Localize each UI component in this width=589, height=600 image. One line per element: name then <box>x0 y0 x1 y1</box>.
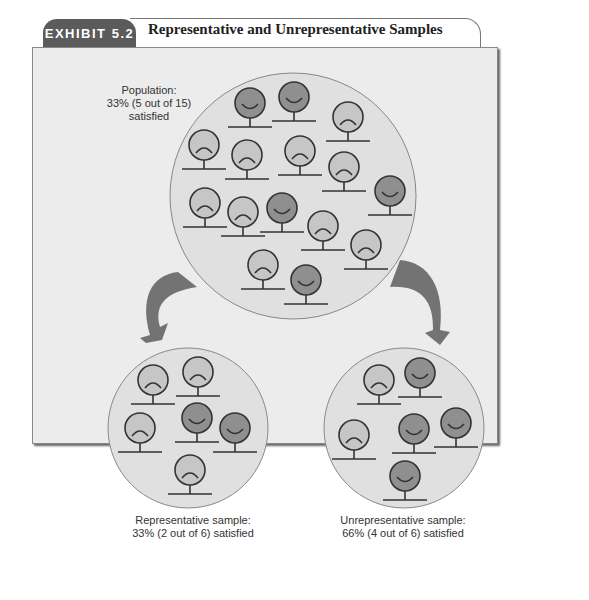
unrepresentative-sample-label: Unrepresentative sample: 66% (4 out of 6… <box>318 514 488 540</box>
population-label: Population: 33% (5 out of 15) satisfied <box>94 84 204 123</box>
arrow-to-unrepresentative <box>390 260 450 345</box>
representative-label-line2: 33% (2 out of 6) satisfied <box>108 527 278 540</box>
unrepresentative-label-line1: Unrepresentative sample: <box>318 514 488 527</box>
figure-diagram <box>0 0 589 600</box>
representative-label-line1: Representative sample: <box>108 514 278 527</box>
population-label-line2: 33% (5 out of 15) <box>94 97 204 110</box>
population-label-line1: Population: <box>94 84 204 97</box>
population-label-line3: satisfied <box>94 110 204 123</box>
population-circle <box>170 73 416 319</box>
unrepresentative-label-line2: 66% (4 out of 6) satisfied <box>318 527 488 540</box>
representative-sample-label: Representative sample: 33% (2 out of 6) … <box>108 514 278 540</box>
unrepresentative-sample-circle <box>324 348 484 508</box>
arrow-to-representative <box>140 272 197 343</box>
representative-sample-circle <box>108 348 268 508</box>
